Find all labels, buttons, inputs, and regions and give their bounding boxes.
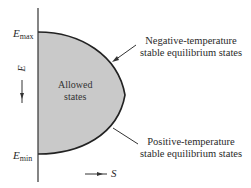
- negative-pointer-head: [112, 56, 119, 62]
- entropy-axis-label: S: [111, 168, 117, 179]
- negative-line2: stable equilibrium states: [140, 47, 242, 59]
- allowed-line1: Allowed: [58, 79, 92, 91]
- energy-arrowhead: [20, 93, 24, 99]
- e-max-sub: max: [20, 32, 34, 41]
- e-min-symbol: E: [13, 149, 20, 161]
- energy-axis-label: E: [16, 65, 27, 71]
- e-max-symbol: E: [13, 27, 20, 39]
- negative-pointer: [115, 45, 136, 60]
- positive-line1: Positive-temperature: [140, 136, 242, 148]
- positive-line2: stable equilibrium states: [140, 148, 242, 160]
- positive-pointer: [113, 128, 138, 144]
- entropy-arrowhead: [97, 172, 103, 176]
- negative-temperature-note: Negative-temperature stable equilibrium …: [140, 35, 242, 59]
- positive-temperature-note: Positive-temperature stable equilibrium …: [140, 136, 242, 160]
- e-max-label: Emax: [13, 28, 34, 42]
- allowed-line2: states: [58, 91, 92, 103]
- negative-line1: Negative-temperature: [140, 35, 242, 47]
- e-min-label: Emin: [13, 150, 32, 164]
- e-min-sub: min: [20, 154, 32, 163]
- allowed-states-label: Allowed states: [58, 79, 92, 103]
